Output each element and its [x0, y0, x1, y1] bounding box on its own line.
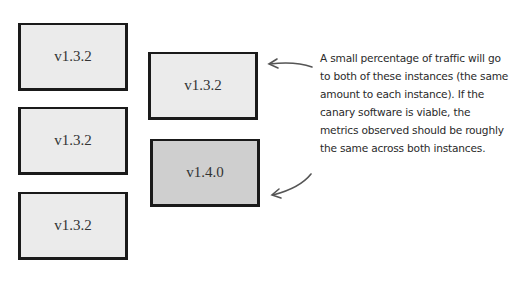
arrow-icon-to-canary	[272, 174, 311, 198]
arrow-icon-to-current	[269, 59, 312, 68]
annotation-text: A small percentage of traffic will go to…	[320, 49, 510, 157]
